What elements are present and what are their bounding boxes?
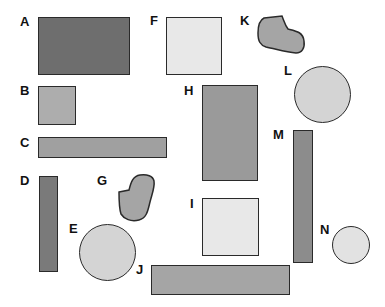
shape-j-rectangle bbox=[151, 265, 290, 295]
label-m: M bbox=[273, 128, 284, 141]
label-j: J bbox=[136, 263, 143, 276]
shape-c-rectangle bbox=[38, 137, 167, 158]
label-f: F bbox=[150, 14, 158, 27]
shape-n-circle bbox=[332, 226, 370, 264]
label-e: E bbox=[69, 222, 78, 235]
shape-e-circle bbox=[79, 224, 136, 281]
shape-l-circle bbox=[294, 66, 351, 123]
label-h: H bbox=[184, 84, 193, 97]
shape-a-rectangle bbox=[38, 17, 130, 75]
shape-d-rectangle bbox=[39, 176, 58, 272]
shapes-diagram: A B C D E F G H I J K L M N bbox=[0, 0, 385, 307]
label-l: L bbox=[284, 64, 292, 77]
shape-f-square bbox=[166, 17, 222, 75]
shape-m-rectangle bbox=[293, 130, 313, 263]
shape-k-irregular bbox=[256, 15, 308, 57]
label-a: A bbox=[20, 15, 29, 28]
label-d: D bbox=[20, 174, 29, 187]
label-n: N bbox=[320, 223, 329, 236]
shape-i-square bbox=[202, 198, 259, 256]
label-g: G bbox=[97, 174, 107, 187]
shape-g-irregular bbox=[115, 172, 160, 224]
label-k: K bbox=[240, 14, 249, 27]
label-b: B bbox=[20, 84, 29, 97]
label-i: I bbox=[190, 197, 194, 210]
shape-b-square bbox=[38, 86, 76, 125]
shape-h-rectangle bbox=[202, 85, 258, 181]
label-c: C bbox=[20, 136, 29, 149]
